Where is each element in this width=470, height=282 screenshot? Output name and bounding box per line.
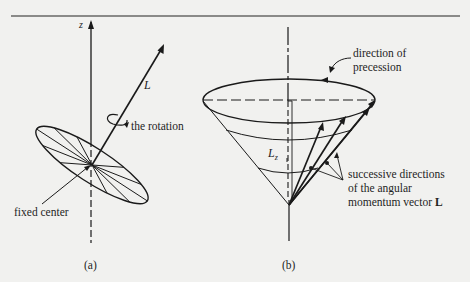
- bold-L: L: [435, 196, 443, 208]
- panel-b-caption: (b): [282, 259, 295, 271]
- precession-leader: [332, 58, 351, 68]
- Lz-subscript: z: [275, 153, 278, 162]
- z-axis-arrowhead-icon: [88, 20, 94, 29]
- rotation-label: the rotation: [131, 120, 184, 132]
- angular-momentum-vector-a: [92, 48, 162, 165]
- successive-label-line1: successive directions: [348, 168, 445, 180]
- precession-circle: [203, 79, 375, 100]
- precession-label-line2: precession: [353, 61, 402, 73]
- precession-label-line1: direction of: [353, 47, 406, 59]
- successive-label-line3: momentum vector L: [348, 196, 443, 208]
- successive-label-text: momentum vector: [348, 196, 435, 208]
- panel-a-caption: (a): [84, 259, 97, 271]
- successive-label-line2: of the angular: [348, 182, 412, 194]
- Lz-label: Lz: [268, 147, 278, 164]
- z-axis-label: z: [79, 19, 83, 31]
- Lz-base: L: [268, 146, 275, 160]
- panel-b: [203, 27, 375, 241]
- fixed-center-leader: [42, 167, 88, 204]
- precession-diagram: [0, 0, 470, 282]
- precession-direction-arrow-icon: [321, 77, 328, 83]
- fixed-center-label: fixed center: [14, 206, 69, 218]
- L-vector-label: L: [144, 79, 151, 91]
